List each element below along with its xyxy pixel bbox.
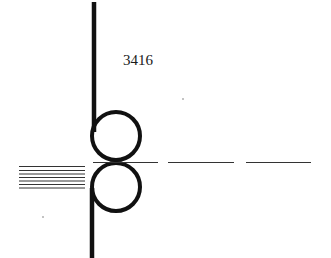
speck xyxy=(42,216,44,218)
lower-coil xyxy=(92,163,140,211)
speck xyxy=(182,98,184,100)
reference-numeral: 3416 xyxy=(123,52,153,69)
spring-diagram xyxy=(0,0,331,258)
hatch-lines xyxy=(19,167,85,189)
upper-coil xyxy=(92,112,140,160)
